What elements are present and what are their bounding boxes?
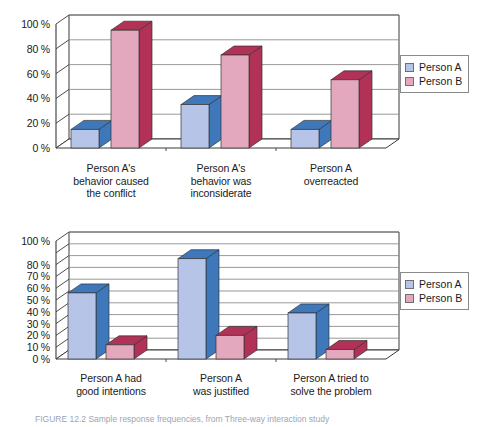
y-tick-label: 60 % <box>27 68 50 79</box>
figure-caption: FIGURE 12.2 Sample response frequencies,… <box>35 414 475 426</box>
y-tick-label: 80 % <box>27 259 50 270</box>
bar-person-a-0 <box>68 284 109 359</box>
x-tick-label: Person A's behavior was inconsiderate <box>166 162 276 200</box>
legend-label: Person A <box>419 279 462 290</box>
bar-chart-bottom: 0 %10 %20 %30 %40 %50 %60 %70 %80 %100 %… <box>0 222 488 407</box>
y-tick-label: 20 % <box>27 118 50 129</box>
plot-svg-bottom <box>0 222 400 372</box>
y-tick-label: 60 % <box>27 283 50 294</box>
y-axis-labels-bottom: 0 %10 %20 %30 %40 %50 %60 %70 %80 %100 % <box>6 222 50 372</box>
x-tick-label: Person A was justified <box>166 372 276 397</box>
plot-area-bottom <box>0 222 400 372</box>
x-tick-label: Person A overreacted <box>276 162 386 200</box>
figure-container: 0 %20 %40 %60 %80 %100 % Person A's beha… <box>0 0 488 427</box>
x-axis-category-labels-top: Person A's behavior caused the conflictP… <box>56 162 386 200</box>
x-tick-label: Person A tried to solve the problem <box>276 372 386 397</box>
bar-person-b-1 <box>216 326 257 359</box>
legend-item: Person A <box>405 60 462 74</box>
y-tick-label: 100 % <box>21 19 50 30</box>
legend-item: Person B <box>405 291 462 305</box>
bar-person-a-1 <box>181 96 222 148</box>
bar-person-a-1 <box>178 250 219 359</box>
legend-swatch-icon <box>405 77 414 86</box>
y-tick-label: 0 % <box>33 143 51 154</box>
bar-person-b-2 <box>331 71 372 148</box>
y-tick-label: 70 % <box>27 271 50 282</box>
legend-swatch-icon <box>405 63 414 72</box>
legend-swatch-icon <box>405 294 414 303</box>
x-tick-label: Person A's behavior caused the conflict <box>56 162 166 200</box>
y-tick-label: 40 % <box>27 307 50 318</box>
y-axis-labels-top: 0 %20 %40 %60 %80 %100 % <box>6 2 50 162</box>
legend-item: Person B <box>405 74 462 88</box>
legend-label: Person B <box>419 76 462 87</box>
y-tick-label: 20 % <box>27 330 50 341</box>
x-axis-category-labels-bottom: Person A had good intentionsPerson A was… <box>56 372 386 397</box>
legend-item: Person A <box>405 277 462 291</box>
bar-person-a-2 <box>288 304 329 359</box>
x-tick-label: Person A had good intentions <box>56 372 166 397</box>
legend-bottom: Person APerson B <box>400 272 469 310</box>
bar-person-b-1 <box>221 46 262 148</box>
y-tick-label: 0 % <box>33 354 51 365</box>
bar-person-b-0 <box>111 21 152 148</box>
legend-swatch-icon <box>405 280 414 289</box>
y-tick-label: 50 % <box>27 295 50 306</box>
y-tick-label: 100 % <box>21 236 50 247</box>
legend-top: Person APerson B <box>400 55 469 93</box>
y-tick-label: 40 % <box>27 93 50 104</box>
y-tick-label: 80 % <box>27 44 50 55</box>
bar-chart-top: 0 %20 %40 %60 %80 %100 % Person A's beha… <box>0 2 488 207</box>
plot-area-top <box>0 2 400 162</box>
y-tick-label: 10 % <box>27 342 50 353</box>
legend-label: Person B <box>419 293 462 304</box>
legend-label: Person A <box>419 62 462 73</box>
y-tick-label: 30 % <box>27 318 50 329</box>
plot-svg-top <box>0 2 400 162</box>
